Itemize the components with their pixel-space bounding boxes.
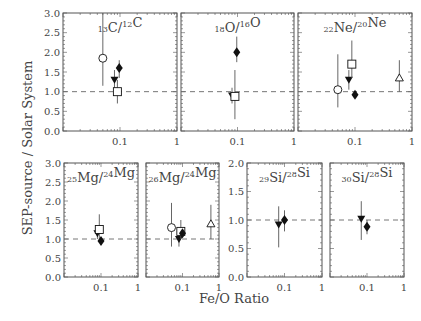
open-square-icon <box>95 226 103 234</box>
open-circle-icon <box>168 224 176 232</box>
y-tick-label: 1.0 <box>45 234 61 245</box>
y-tick-label: 0.5 <box>44 106 60 117</box>
data-point-open-circle <box>168 203 176 247</box>
panel-label: 25Mg/24Mg <box>67 165 135 185</box>
panel-o18: 0.1118O/16O <box>181 13 297 147</box>
panel-label: 30Si/28Si <box>342 165 393 185</box>
filled-diamond-icon <box>364 222 371 232</box>
data-point-filled-triangle-down <box>275 206 283 247</box>
y-tick-label: 0.0 <box>45 272 61 283</box>
open-square-icon <box>231 92 239 100</box>
data-point-open-circle <box>334 54 342 107</box>
open-circle-icon <box>99 54 107 62</box>
y-tick-label: 2.5 <box>45 177 61 188</box>
x-tick-label: 1 <box>135 282 141 293</box>
x-tick-label: 0.1 <box>93 282 109 293</box>
panel-ne22: 0.1122Ne/20Ne <box>298 13 415 147</box>
panel-label: 26Mg/24Mg <box>148 165 216 185</box>
y-tick-label: 1.5 <box>44 67 60 78</box>
data-point-open-triangle-up <box>395 60 403 91</box>
y-tick-label: 3.0 <box>44 8 60 19</box>
x-tick-label: 0.1 <box>347 136 363 147</box>
filled-diamond-icon <box>98 236 105 246</box>
x-tick-label: 0.1 <box>175 282 191 293</box>
data-point-filled-diamond <box>364 220 371 234</box>
x-tick-label: 1 <box>401 282 407 293</box>
x-tick-label: 1 <box>409 136 415 147</box>
y-tick-label: 0.0 <box>228 272 244 283</box>
y-tick-label: 1.0 <box>228 215 244 226</box>
open-circle-icon <box>334 86 342 94</box>
y-tick-label: 2.0 <box>45 196 61 207</box>
y-tick-label: 3.0 <box>45 158 61 169</box>
y-tick-label: 1.5 <box>228 186 244 197</box>
open-square-icon <box>348 60 356 68</box>
panel-mg26: 0.1126Mg/24Mg <box>146 163 222 293</box>
x-axis-label: Fe/O Ratio <box>199 291 269 306</box>
panel-label: 22Ne/20Ne <box>324 15 387 35</box>
filled-triangle-down-icon <box>275 222 283 229</box>
y-tick-label: 0.5 <box>228 243 244 254</box>
data-point-filled-diamond <box>116 60 123 78</box>
filled-triangle-down-icon <box>345 77 353 84</box>
y-axis-label: SEP-source / Solar System <box>20 61 35 236</box>
panel-label: 29Si/28Si <box>259 165 310 185</box>
y-tick-label: 1.0 <box>44 86 60 97</box>
data-point-open-square <box>231 70 239 119</box>
y-tick-label: 2.0 <box>228 158 244 169</box>
panel-mg25: 0.110.00.51.01.52.02.53.025Mg/24Mg <box>45 158 141 294</box>
panel-c13: 0.110.00.51.01.52.02.53.013C/12C <box>44 8 180 148</box>
panel-label: 13C/12C <box>98 15 143 35</box>
data-point-filled-diamond <box>98 236 105 246</box>
x-tick-label: 1 <box>291 136 297 147</box>
y-tick-label: 0.0 <box>44 126 60 137</box>
open-square-icon <box>113 88 121 96</box>
chart-panels: 0.110.00.51.01.52.02.53.013C/12C0.1118O/… <box>44 8 415 294</box>
panel-si29: 0.110.00.51.01.52.029Si/28Si <box>228 158 325 294</box>
filled-diamond-icon <box>281 215 288 225</box>
data-point-filled-diamond <box>281 210 288 231</box>
x-tick-label: 0.1 <box>112 136 128 147</box>
data-point-open-square <box>95 214 103 241</box>
y-tick-label: 1.5 <box>45 215 61 226</box>
filled-diamond-icon <box>116 63 123 73</box>
data-point-filled-triangle-down <box>357 201 365 240</box>
data-point-filled-diamond <box>233 37 240 63</box>
x-tick-label: 0.1 <box>230 136 246 147</box>
isotope-ratio-chart: 0.110.00.51.01.52.02.53.013C/12C0.1118O/… <box>0 0 421 321</box>
x-tick-label: 1 <box>174 136 180 147</box>
x-tick-label: 0.1 <box>359 282 375 293</box>
y-tick-label: 2.0 <box>44 47 60 58</box>
y-tick-label: 0.5 <box>45 253 61 264</box>
panel-si30: 0.1130Si/28Si <box>330 163 407 293</box>
data-point-open-circle <box>99 13 107 86</box>
data-point-open-triangle-up <box>207 205 215 239</box>
panel-label: 18O/16O <box>214 15 260 35</box>
x-tick-label: 0.1 <box>277 282 293 293</box>
y-tick-label: 2.5 <box>44 27 60 38</box>
open-triangle-up-icon <box>207 220 215 227</box>
open-triangle-up-icon <box>395 74 403 81</box>
filled-triangle-down-icon <box>357 216 365 223</box>
x-tick-label: 1 <box>319 282 325 293</box>
filled-diamond-icon <box>233 47 240 57</box>
